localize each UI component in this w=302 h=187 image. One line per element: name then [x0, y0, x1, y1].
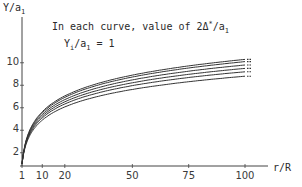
y-tick-label: 4 [13, 123, 19, 134]
x-tick-label: 10 [36, 170, 49, 181]
x-tick-label: 75 [182, 170, 195, 181]
annotation-yi-ratio: Yi/a1 = 1 [64, 38, 115, 52]
curve-6 [22, 76, 245, 164]
x-tick-label: 1 [19, 170, 25, 181]
curve-3 [22, 65, 245, 164]
curve-2 [22, 62, 245, 164]
x-tick-label: 50 [126, 170, 139, 181]
y-tick-label: 6 [13, 101, 19, 112]
x-tick-label: 100 [235, 170, 254, 181]
y-tick-label: 2 [13, 146, 19, 157]
x-tick-label: 20 [58, 170, 71, 181]
y-tick-label: 10 [6, 56, 19, 67]
chart: Y/a1 In each curve, value of 2Δ*/a1 Yi/a… [0, 0, 302, 187]
annotation-curve-parameter: In each curve, value of 2Δ*/a1 [52, 20, 229, 35]
y-axis-label: Y/a1 [3, 2, 25, 16]
tick-marks [20, 63, 245, 168]
curve-4 [22, 68, 245, 164]
y-tick-label: 8 [13, 78, 19, 89]
curve-5 [22, 72, 245, 164]
x-axis-label: r/R [273, 162, 291, 173]
curves [22, 59, 252, 164]
